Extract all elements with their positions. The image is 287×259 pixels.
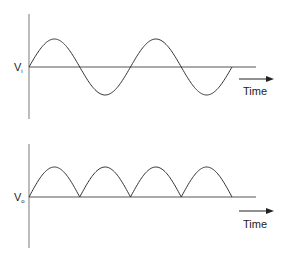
arrow-head-icon bbox=[266, 208, 274, 214]
output-waveform-plot: Time Vo bbox=[14, 144, 274, 248]
x-axis-label: Time bbox=[243, 85, 267, 97]
input-waveform-plot: Time Vi bbox=[14, 14, 274, 119]
x-axis-label: Time bbox=[243, 218, 267, 230]
arrow-head-icon bbox=[266, 76, 274, 82]
y-axis-label: Vi bbox=[14, 61, 23, 74]
rectified-curve bbox=[29, 167, 232, 197]
y-axis-label: Vo bbox=[14, 191, 25, 204]
rectifier-diagram: Time Vi Time Vo bbox=[0, 0, 287, 259]
